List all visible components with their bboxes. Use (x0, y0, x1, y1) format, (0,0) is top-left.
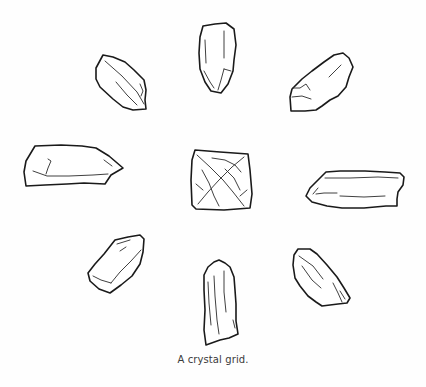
crystal-top-right (290, 53, 353, 111)
crystal-top (199, 23, 236, 93)
crystal-bottom (204, 260, 238, 345)
figure-caption: A crystal grid. (0, 354, 426, 365)
crystal-center (191, 150, 252, 210)
crystal-bottom-left (88, 235, 144, 293)
crystal-right (306, 171, 404, 208)
crystal-left (24, 145, 123, 186)
crystal-top-left (96, 55, 146, 110)
page: A crystal grid. (0, 0, 426, 387)
crystal-bottom-right (293, 249, 350, 306)
crystal-grid-illustration (0, 0, 426, 387)
